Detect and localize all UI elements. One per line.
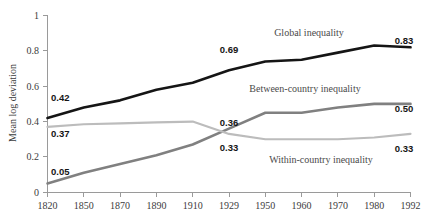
x-tick-label: 1970 (328, 200, 348, 211)
series-label-within: Within-country inequality (269, 154, 373, 165)
x-tick-labels: 1820 1850 1870 1890 1910 1929 1950 1960 … (38, 200, 421, 211)
series-line-global-inequality (48, 46, 411, 118)
y-tick-label: 0.8 (27, 45, 40, 56)
x-tick-label: 1890 (146, 200, 166, 211)
value-label-within-mid: 0.33 (220, 142, 239, 153)
value-label-global-start: 0.42 (51, 92, 70, 103)
x-tick-label: 1980 (364, 200, 384, 211)
x-tick-marks (48, 193, 411, 198)
series-label-global: Global inequality (274, 27, 344, 38)
line-chart-canvas: 1 0.8 0.6 0.4 0.2 0 Mean log deviation 1… (0, 0, 431, 221)
y-tick-label: 0.2 (27, 151, 40, 162)
x-tick-label: 1960 (292, 200, 312, 211)
value-label-within-start: 0.37 (51, 128, 70, 139)
chart-figure: 1 0.8 0.6 0.4 0.2 0 Mean log deviation 1… (0, 0, 431, 221)
value-label-within-end: 0.33 (395, 143, 414, 154)
series-label-between: Between-country inequality (249, 83, 360, 94)
y-tick-label: 0.4 (27, 116, 40, 127)
value-label-global-end: 0.83 (395, 35, 414, 46)
value-label-between-mid: 0.36 (220, 117, 239, 128)
y-tick-marks (43, 16, 48, 193)
y-axis-title: Mean log deviation (7, 64, 18, 142)
value-label-between-end: 0.50 (395, 103, 414, 114)
x-tick-label: 1929 (219, 200, 239, 211)
y-tick-label: 1 (34, 10, 39, 21)
x-tick-label: 1820 (38, 200, 58, 211)
x-tick-label: 1992 (401, 200, 421, 211)
x-tick-label: 1870 (110, 200, 130, 211)
y-tick-label: 0 (34, 187, 39, 198)
y-tick-label: 0.6 (27, 81, 40, 92)
x-tick-label: 1910 (183, 200, 203, 211)
value-label-between-start: 0.05 (51, 166, 70, 177)
value-label-global-mid: 0.69 (220, 44, 239, 55)
x-tick-label: 1950 (255, 200, 275, 211)
y-tick-labels: 1 0.8 0.6 0.4 0.2 0 (27, 10, 40, 198)
x-tick-label: 1850 (74, 200, 94, 211)
